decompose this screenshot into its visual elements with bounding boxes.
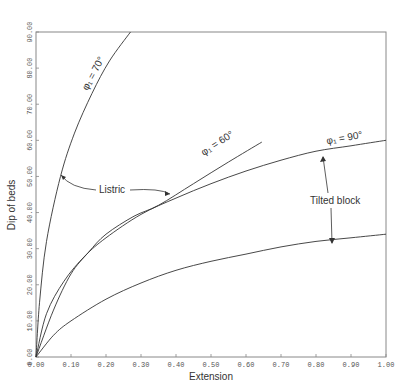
x-tick-label: 0.40 [168, 361, 185, 369]
curve-label-phi60: φ₁ = 60° [199, 129, 236, 158]
x-tick-label: 0.70 [273, 361, 290, 369]
y-tick-label: 30.00 [26, 238, 34, 259]
y-tick-label: 0.00 [26, 349, 34, 366]
x-tick-label: 0.20 [98, 361, 115, 369]
y-tick-label: 50.00 [26, 166, 34, 187]
x-tick-label: 0.60 [238, 361, 255, 369]
tilted-arrow-head-up [320, 156, 326, 162]
y-tick-label: 60.00 [26, 130, 34, 151]
y-tick-label: 40.00 [26, 202, 34, 223]
tilted-arrow-up [323, 157, 328, 193]
y-axis-ticks: 0.0010.0020.0030.0040.0050.0060.0070.008… [26, 21, 39, 365]
tilted-arrow-head-down [329, 238, 335, 244]
x-tick-label: 0.90 [343, 361, 360, 369]
x-tick-label: 0.80 [308, 361, 325, 369]
y-tick-label: 70.00 [26, 94, 34, 115]
annotation-listric: Listric [99, 184, 125, 195]
chart-svg: 0.000.100.200.300.400.500.600.700.800.90… [0, 0, 409, 390]
x-axis-ticks: 0.000.100.200.300.400.500.600.700.800.90… [28, 354, 395, 369]
y-tick-label: 90.00 [26, 21, 34, 42]
y-tick-label: 80.00 [26, 58, 34, 79]
listric-arrow-left [61, 175, 96, 190]
y-tick-label: 20.00 [26, 274, 34, 295]
x-tick-label: 0.30 [133, 361, 150, 369]
annotation-tilted-block: Tilted block [310, 195, 361, 206]
x-tick-label: 1.00 [378, 361, 395, 369]
x-axis-label: Extension [189, 371, 233, 382]
y-axis-label: Dip of beds [6, 180, 17, 231]
x-tick-label: 0.50 [203, 361, 220, 369]
y-tick-label: 10.00 [26, 310, 34, 331]
listric-arrow-right [130, 190, 170, 195]
curve-label-phi90: φ₁ = 90° [326, 129, 364, 146]
curve-series-1 [36, 142, 262, 357]
tilted-arrow-down [331, 208, 332, 243]
x-tick-label: 0.10 [63, 361, 80, 369]
